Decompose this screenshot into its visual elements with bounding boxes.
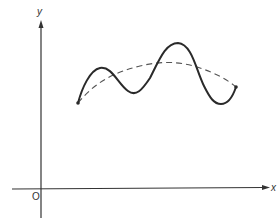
end-point [234, 85, 238, 89]
y-axis-label: y [36, 6, 43, 17]
x-axis [12, 188, 264, 190]
graph-diagram: y x O [0, 0, 279, 224]
origin-label: O [32, 191, 40, 202]
x-axis-label: x [270, 182, 277, 193]
oscillating-curve [78, 43, 236, 104]
x-axis-arrow-icon [262, 185, 270, 190]
start-point [76, 101, 80, 105]
y-axis-arrow-icon [39, 20, 44, 28]
